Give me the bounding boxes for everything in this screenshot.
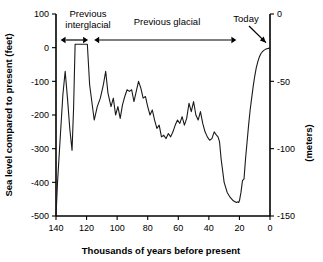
y-axis-title-left: Sea level compared to present (feet) [3, 33, 14, 196]
arrow-head-right [83, 37, 88, 43]
axes-group [56, 14, 270, 216]
left-tick-label: 0 [44, 43, 49, 53]
sea-level-chart: 1000-100-200-300-400-500 0-50-100-150 14… [0, 0, 323, 262]
bottom-tick-label: 100 [110, 223, 125, 233]
right-tick-label: -100 [277, 144, 295, 154]
bottom-tick-label: 140 [48, 223, 63, 233]
previous-interglacial-arrow [61, 37, 89, 43]
previous-interglacial-label-line1: Previous [70, 8, 107, 19]
left-tick-label: -400 [31, 178, 49, 188]
bottom-tick-label: 80 [143, 223, 153, 233]
annotation-today: Today [233, 13, 266, 43]
previous-interglacial-label-line2: interglacial [65, 19, 110, 30]
left-tick-label: -100 [31, 77, 49, 87]
annotation-previous-glacial: Previous glacial [94, 16, 236, 43]
x-axis-title: Thousands of years before present [82, 245, 241, 256]
bottom-tick-label: 0 [267, 223, 272, 233]
sea-level-curve [56, 44, 270, 216]
annotation-previous-interglacial: Previous interglacial [61, 8, 111, 43]
previous-glacial-arrow [94, 37, 236, 43]
left-tick-label: 100 [34, 9, 49, 19]
right-axis-ticks: 0-50-100-150 [270, 9, 295, 221]
today-arrow [249, 26, 266, 43]
y-axis-title-right: (meters) [303, 124, 314, 162]
bottom-tick-label: 60 [173, 223, 183, 233]
arrow-head-left [94, 37, 99, 43]
right-tick-label: -150 [277, 211, 295, 221]
right-tick-label: 0 [277, 9, 282, 19]
previous-glacial-label: Previous glacial [134, 16, 201, 27]
bottom-axis-ticks: 140120100806040200 [48, 216, 272, 233]
today-label: Today [233, 13, 259, 24]
arrow-head-left [61, 37, 66, 43]
left-tick-label: -500 [31, 211, 49, 221]
bottom-tick-label: 40 [204, 223, 214, 233]
left-axis-ticks: 1000-100-200-300-400-500 [31, 9, 56, 221]
bottom-tick-label: 20 [234, 223, 244, 233]
left-tick-label: -300 [31, 144, 49, 154]
left-tick-label: -200 [31, 110, 49, 120]
bottom-tick-label: 120 [79, 223, 94, 233]
arrow-head-right [231, 37, 236, 43]
chart-canvas: 1000-100-200-300-400-500 0-50-100-150 14… [0, 0, 323, 262]
right-tick-label: -50 [277, 77, 290, 87]
